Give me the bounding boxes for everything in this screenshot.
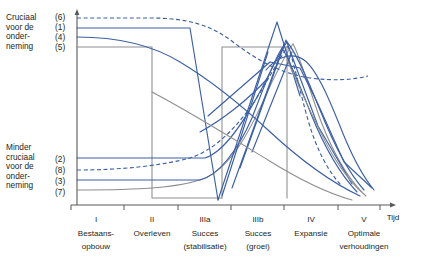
- x-stage-2a: Overleven: [134, 229, 171, 238]
- x-stage-5a: Expansie: [294, 229, 328, 238]
- y-axis: [75, 9, 80, 205]
- chart-container: Cruciaal voor de onder- neming Minder cr…: [0, 0, 422, 265]
- series-1: [77, 28, 218, 200]
- x-stage-3a: Succes: [192, 229, 219, 238]
- x-roman-6: V: [361, 215, 367, 224]
- x-roman-5: IV: [307, 215, 315, 224]
- chart-svg: I Bestaans- opbouw II Overleven IIIa Suc…: [0, 0, 422, 265]
- x-stage-3b: (stabilisatie): [183, 242, 226, 251]
- x-stage-4b: (groei): [246, 242, 270, 251]
- x-axis: [71, 203, 396, 210]
- x-stage-4a: Succes: [245, 229, 272, 238]
- series-7-gray: [77, 44, 362, 192]
- x-axis-title: Tijd: [387, 213, 400, 222]
- x-axis-labels: I Bestaans- opbouw II Overleven IIIa Suc…: [78, 213, 400, 251]
- x-stage-6b: verhoudingen: [339, 242, 388, 251]
- x-roman-3: IIIa: [199, 215, 211, 224]
- x-stage-6a: Optimale: [348, 229, 381, 238]
- x-roman-1: I: [95, 215, 97, 224]
- x-stage-1b: opbouw: [82, 242, 111, 251]
- x-roman-4: IIIb: [252, 215, 264, 224]
- x-stage-1a: Bestaans-: [78, 229, 115, 238]
- series-4: [77, 37, 360, 196]
- x-roman-2: II: [150, 215, 155, 224]
